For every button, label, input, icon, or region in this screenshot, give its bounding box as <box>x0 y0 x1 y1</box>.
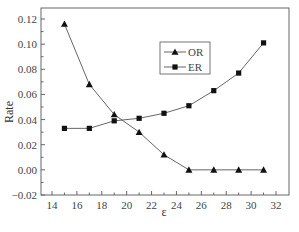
square-marker <box>137 116 142 121</box>
y-axis-label: Rate <box>2 101 16 123</box>
triangle-marker <box>61 21 68 27</box>
y-axis: −0.020.000.020.040.060.080.100.12 <box>12 13 45 201</box>
x-tick-label: 26 <box>196 199 208 211</box>
legend-label: ER <box>188 61 203 73</box>
x-tick-label: 14 <box>47 199 59 211</box>
square-marker <box>172 64 177 69</box>
y-tick-label: 0.06 <box>18 88 38 100</box>
line-chart: −0.020.000.020.040.060.080.100.12 141618… <box>0 0 299 232</box>
plot-border <box>41 8 289 195</box>
plot-frame <box>41 8 289 195</box>
x-tick-label: 32 <box>271 199 282 211</box>
square-marker <box>211 88 216 93</box>
triangle-marker <box>136 129 143 135</box>
y-tick-label: 0.00 <box>18 164 38 176</box>
square-marker <box>161 111 166 116</box>
x-axis-label: ε <box>161 205 166 219</box>
legend-label: OR <box>188 46 204 58</box>
square-marker <box>186 103 191 108</box>
x-tick-label: 22 <box>146 199 157 211</box>
triangle-marker <box>86 81 93 87</box>
x-tick-label: 20 <box>121 199 133 211</box>
square-marker <box>236 70 241 75</box>
y-tick-label: 0.08 <box>18 63 38 75</box>
y-tick-label: −0.02 <box>12 189 37 201</box>
x-tick-label: 16 <box>71 199 83 211</box>
x-tick-label: 28 <box>221 199 233 211</box>
x-tick-label: 18 <box>96 199 108 211</box>
legend: ORER <box>160 42 210 74</box>
y-tick-label: 0.10 <box>18 38 38 50</box>
y-tick-label: 0.02 <box>18 139 37 151</box>
square-marker <box>87 126 92 131</box>
square-marker <box>261 40 266 45</box>
y-tick-label: 0.12 <box>18 13 37 25</box>
square-marker <box>112 118 117 123</box>
y-tick-label: 0.04 <box>18 114 38 126</box>
x-tick-label: 30 <box>246 199 258 211</box>
square-marker <box>62 126 67 131</box>
x-tick-label: 24 <box>171 199 183 211</box>
